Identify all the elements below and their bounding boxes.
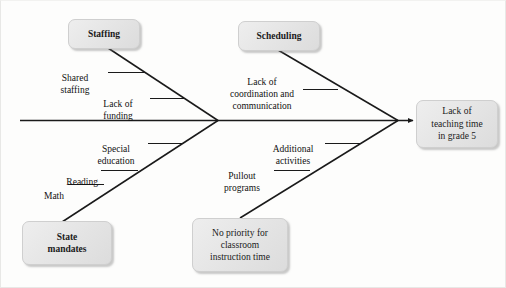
effect-label: Lack of teaching time in grade 5	[431, 105, 482, 143]
cause-text-pullout-programs: Pullout programs	[224, 171, 260, 193]
category-label-staffing: Staffing	[88, 28, 120, 40]
fishbone-diagram-canvas: Staffing Scheduling State mandates No pr…	[0, 0, 506, 288]
cause-text-lack-of-funding: Lack of funding	[103, 99, 133, 121]
category-label-state-mandates: State mandates	[47, 231, 86, 255]
effect-box[interactable]: Lack of teaching time in grade 5	[416, 100, 498, 148]
cause-label-pullout-programs: Pullout programs	[212, 158, 272, 194]
category-label-no-priority: No priority for classroom instruction ti…	[210, 227, 270, 263]
cause-label-lack-of-funding: Lack of funding	[88, 86, 148, 122]
category-box-state-mandates[interactable]: State mandates	[22, 221, 112, 265]
cause-text-additional-activities: Additional activities	[273, 144, 314, 166]
cause-text-special-education: Special education	[98, 144, 135, 166]
category-label-scheduling: Scheduling	[257, 30, 302, 42]
cause-text-reading: Reading	[66, 177, 98, 187]
cause-text-math: Math	[44, 191, 64, 201]
category-box-staffing[interactable]: Staffing	[68, 19, 140, 49]
cause-label-special-education: Special education	[86, 131, 146, 167]
category-box-no-priority[interactable]: No priority for classroom instruction ti…	[192, 218, 288, 272]
cause-text-lack-of-coordination: Lack of coordination and communication	[230, 77, 294, 111]
cause-text-shared-staffing: Shared staffing	[61, 73, 90, 95]
cause-label-lack-of-coordination: Lack of coordination and communication	[222, 64, 302, 112]
cause-label-math: Math	[22, 178, 64, 202]
category-box-scheduling[interactable]: Scheduling	[238, 21, 320, 51]
